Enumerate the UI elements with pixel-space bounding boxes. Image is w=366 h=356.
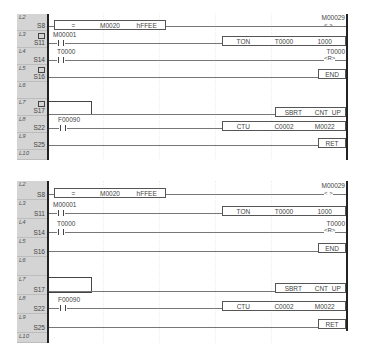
wire (48, 327, 318, 328)
rung-row[interactable]: L5 S16 END (17, 238, 350, 257)
row-label: L9 S25 (17, 314, 47, 333)
rung-row[interactable]: L6 (17, 82, 350, 99)
empty-cell-box[interactable] (48, 101, 92, 115)
rung-row[interactable]: L4 S14 T0000 T0000 <R> (17, 48, 350, 65)
timer-instr: TON (223, 208, 264, 215)
no-contact-icon[interactable] (57, 210, 65, 216)
output-coil-icon[interactable]: < > (324, 190, 333, 196)
reset-coil-icon[interactable]: <R> (324, 55, 335, 61)
no-contact-icon[interactable] (59, 125, 67, 131)
row-label: L10 (17, 333, 47, 343)
row-label: L2 S8 (17, 181, 47, 200)
sbrt-name: CNT_UP (311, 109, 346, 116)
end-block[interactable]: END (318, 243, 346, 253)
contact-address: T0000 (57, 220, 75, 227)
ctu-counter: C0002 (264, 123, 305, 130)
row-label: L8 S22 (17, 295, 47, 314)
rung-row[interactable]: L4 S14 T0000 T0000 <R> (17, 219, 350, 238)
row-label: L10 (17, 150, 47, 160)
step-number: S11 (34, 39, 45, 46)
contact-address: M00001 (53, 31, 77, 38)
left-power-rail (47, 14, 49, 160)
rung-row[interactable]: L8 S22 F00090 CTU C0002 M0022 (17, 295, 350, 314)
step-number: S25 (33, 324, 45, 331)
rung-row[interactable]: L2 S8 = M0020 hFFEE M00029 < > (17, 14, 350, 31)
no-contact-icon[interactable] (57, 229, 65, 235)
output-coil-icon[interactable]: < > (324, 22, 333, 28)
line-number: L5 (19, 65, 26, 71)
row-label: L6 (17, 82, 47, 99)
rung-row[interactable]: L7 S17 SBRT CNT_UP (17, 276, 350, 295)
rung-row[interactable]: L9 S25 RET (17, 133, 350, 150)
line-number: L9 (19, 133, 26, 139)
ctu-instr: CTU (223, 303, 264, 310)
contact-address: F00090 (58, 296, 80, 303)
sbrt-block[interactable]: SBRT CNT_UP (275, 283, 346, 293)
right-power-rail (346, 181, 348, 331)
no-contact-icon[interactable] (57, 57, 65, 63)
compare-block[interactable]: = M0020 hFFEE (54, 188, 166, 198)
line-number: L4 (19, 219, 26, 225)
step-number: S17 (33, 107, 45, 114)
coil-address: M00029 (307, 14, 345, 21)
rung-row[interactable]: L8 S22 F00090 CTU C0002 M0022 (17, 116, 350, 133)
reset-coil-icon[interactable]: <R> (324, 227, 335, 233)
coil-address: T0000 (307, 48, 345, 55)
ret-block[interactable]: RET (318, 319, 346, 329)
rung-row[interactable]: L10 (17, 333, 350, 343)
rung-row[interactable]: L10 (17, 150, 350, 160)
timer-address: T0000 (264, 38, 305, 45)
line-number: L7 (19, 99, 26, 105)
rung-row[interactable]: L3 S11 M00001 TON T0000 1000 (17, 31, 350, 48)
line-number: L2 (19, 181, 26, 187)
compare-operand1: M0020 (92, 190, 129, 197)
timer-block[interactable]: TON T0000 1000 (222, 206, 346, 216)
row-label: L5 S16 (17, 238, 47, 257)
line-number: L9 (19, 314, 26, 320)
ctu-block[interactable]: CTU C0002 M0022 (222, 121, 346, 131)
step-number: S17 (33, 286, 45, 293)
step-number: S25 (33, 141, 45, 148)
wire (48, 291, 275, 292)
ret-label: RET (319, 321, 345, 328)
ctu-preset: M0022 (304, 123, 345, 130)
ret-block[interactable]: RET (318, 138, 346, 148)
timer-instr: TON (223, 38, 264, 45)
ret-label: RET (319, 140, 345, 147)
rung-row[interactable]: L5 S16 END (17, 65, 350, 82)
line-number: L6 (19, 257, 26, 263)
sbrt-name: CNT_UP (311, 285, 346, 292)
compare-block[interactable]: = M0020 hFFEE (54, 20, 166, 30)
sbrt-instr: SBRT (276, 109, 311, 116)
rung-row[interactable]: L7 S17 SBRT CNT_UP (17, 99, 350, 116)
row-label: L5 S16 (17, 65, 47, 82)
step-number: S14 (33, 229, 45, 236)
rung-row[interactable]: L6 (17, 257, 350, 276)
wire (48, 60, 348, 61)
end-block[interactable]: END (318, 69, 346, 79)
line-number: L8 (19, 116, 26, 122)
no-contact-icon[interactable] (57, 40, 65, 46)
no-contact-icon[interactable] (59, 305, 67, 311)
line-number: L2 (19, 14, 26, 20)
timer-block[interactable]: TON T0000 1000 (222, 36, 346, 46)
line-number: L10 (19, 333, 29, 339)
wire (166, 26, 346, 27)
ctu-instr: CTU (223, 123, 264, 130)
right-power-rail (346, 14, 348, 160)
step-number: S16 (33, 73, 45, 80)
rung-row[interactable]: L2 S8 = M0020 hFFEE M00029 < > (17, 181, 350, 200)
timer-address: T0000 (264, 208, 305, 215)
row-label: L6 (17, 257, 47, 276)
ctu-block[interactable]: CTU C0002 M0022 (222, 301, 346, 311)
wire (48, 114, 275, 115)
compare-operand2: hFFEE (128, 190, 165, 197)
row-label: L3 S11 (17, 31, 47, 48)
line-number: L7 (19, 276, 26, 282)
rung-row[interactable]: L9 S25 RET (17, 314, 350, 333)
compare-op: = (55, 190, 92, 197)
step-number: S11 (34, 210, 45, 217)
line-number: L8 (19, 295, 26, 301)
rung-row[interactable]: L3 S11 M00001 TON T0000 1000 (17, 200, 350, 219)
line-number: L3 (19, 31, 26, 37)
